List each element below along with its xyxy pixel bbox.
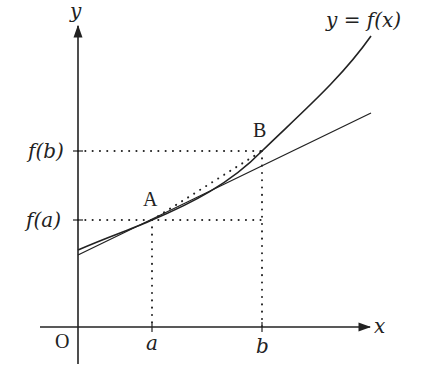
fa-label: f(a) (24, 208, 61, 232)
a-label: a (146, 331, 158, 355)
x-axis-label: x (374, 314, 385, 338)
point-a-label: A (143, 188, 158, 210)
tangent-line (78, 113, 371, 255)
b-label: b (256, 334, 269, 358)
secant-chord-ab (152, 151, 262, 220)
y-axis-label: y (69, 0, 82, 23)
function-tangent-diagram: y x O A B a b f(a) f(b) y = f(x) (0, 0, 427, 385)
function-curve (78, 36, 371, 250)
curve-label: y = f(x) (325, 8, 401, 32)
origin-label: O (55, 330, 69, 352)
fb-label: f(b) (26, 139, 64, 163)
point-b-label: B (253, 119, 266, 141)
